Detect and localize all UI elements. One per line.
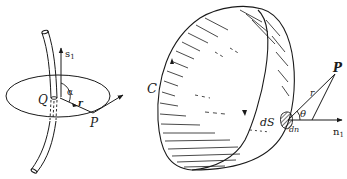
label-dn: dn [289, 125, 299, 134]
tube-lower [30, 121, 56, 174]
shell-hatching [160, 10, 289, 167]
label-dS: dS [260, 116, 275, 129]
label-Q: Q [38, 93, 48, 107]
label-n1: n1 [333, 126, 344, 139]
disk-ellipse [6, 75, 110, 117]
projection-line [312, 74, 335, 120]
label-alpha: α [67, 87, 73, 97]
boundary-curve-C [192, 10, 268, 170]
left-panel: s1 α r Q P [6, 30, 123, 174]
label-r-right: r [310, 88, 315, 98]
label-P-right: P [332, 61, 343, 75]
label-P-left: P [89, 116, 99, 130]
label-theta: θ [300, 108, 306, 119]
figure-diagram: s1 α r Q P [0, 0, 347, 179]
label-s1: s1 [65, 48, 75, 61]
hemisphere-outline [158, 6, 295, 170]
tube-upper [41, 30, 57, 100]
curve-C-direction-arrow-left [170, 58, 174, 64]
label-r-left: r [78, 98, 84, 108]
label-C: C [147, 81, 157, 96]
right-panel: C dS n1 θ r P dn [147, 6, 344, 170]
curve-C-direction-arrow-inner [242, 110, 247, 116]
tangent-arrow-at-P [93, 95, 123, 113]
